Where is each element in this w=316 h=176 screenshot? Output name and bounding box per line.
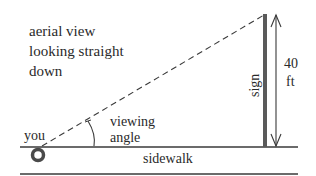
caption-line-2: looking straight [29, 44, 124, 59]
caption-line-1: aerial view [29, 24, 95, 39]
height-value-label: 40 [284, 57, 298, 71]
sign-label: sign [248, 74, 262, 97]
sign-bar [263, 14, 267, 147]
height-unit-label: ft [286, 75, 295, 89]
diagram: aerial view looking straight down you vi… [0, 0, 316, 176]
sidewalk-label: sidewalk [143, 152, 193, 166]
viewing-angle-arc [88, 121, 94, 146]
caption-line-3: down [29, 64, 62, 79]
you-label: you [24, 129, 45, 143]
you-marker-icon [33, 150, 44, 161]
viewing-angle-label-line-2: angle [110, 131, 140, 145]
viewing-angle-label-line-1: viewing [110, 115, 155, 129]
height-arrow [271, 15, 281, 146]
